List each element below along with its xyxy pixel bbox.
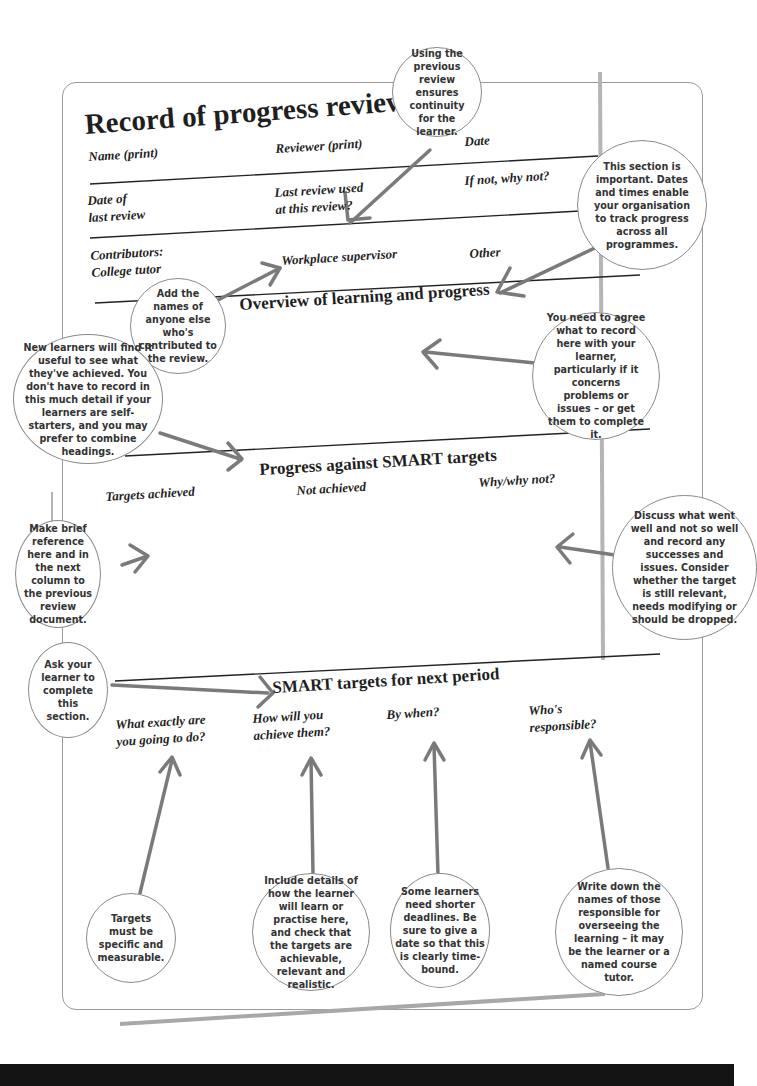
callout-agree-record: You need to agree what to record here wi…	[532, 312, 660, 440]
col-how-achieve: How will you achieve them?	[252, 705, 331, 744]
col-what-exactly: What exactly are you going to do?	[115, 711, 207, 750]
callout-responsible: Write down the names of those responsibl…	[555, 868, 683, 996]
callout-previous-review: Using the previous review ensures contin…	[392, 47, 482, 137]
label-contributors: Contributors: College tutor	[90, 243, 165, 281]
callout-deadlines: Some learners need shorter deadlines. Be…	[390, 873, 490, 988]
bottom-bar	[0, 1064, 734, 1086]
label-date-last-review: Date of last review	[87, 189, 146, 226]
callout-specific: Targets must be specific and measurable.	[86, 893, 176, 983]
callout-section-important: This section is important. Dates and tim…	[577, 140, 707, 270]
callout-new-learners: New learners will find it useful to see …	[13, 334, 163, 464]
callout-discuss: Discuss what went well and not so well a…	[612, 495, 757, 640]
label-last-review-used: Last review used at this review?	[274, 179, 365, 218]
callout-brief-reference: Make brief reference here and in the nex…	[15, 520, 101, 628]
col-by-when: By when?	[386, 703, 440, 723]
callout-include-details: Include details of how the learner will …	[252, 873, 370, 991]
callout-ask-learner: Ask your learner to complete this sectio…	[28, 642, 108, 738]
col-whos-responsible: Who's responsible?	[528, 698, 597, 736]
label-other: Other	[469, 243, 501, 262]
